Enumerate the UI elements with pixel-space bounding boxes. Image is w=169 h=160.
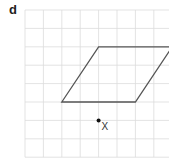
point-x-label: X — [102, 121, 109, 132]
point-x-dot — [97, 118, 101, 122]
grid-diagram: X — [0, 0, 169, 160]
parallelogram — [62, 47, 169, 102]
